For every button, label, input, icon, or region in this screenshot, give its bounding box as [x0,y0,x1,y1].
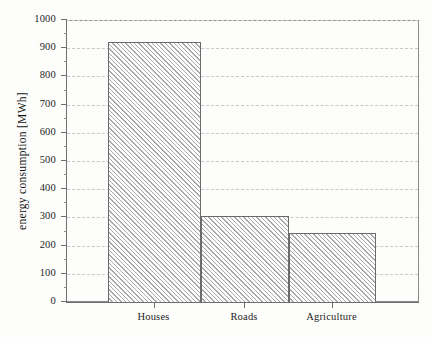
y-axis-minor-tick [64,174,67,175]
gridline [67,20,418,21]
bar [289,233,376,304]
y-axis-tick [61,273,67,274]
y-axis-tick [61,245,67,246]
y-axis-tick-label: 400 [40,183,56,194]
y-axis-minor-tick [64,287,67,288]
y-axis-tick-label: 800 [40,70,56,81]
y-axis-tick [61,132,67,133]
y-axis-tick-label: 0 [51,296,56,307]
y-axis-minor-tick [64,118,67,119]
bar [108,42,201,303]
y-axis-tick [61,188,67,189]
x-axis [66,302,419,303]
y-axis-minor-tick [64,90,67,91]
y-axis-tick-label: 300 [40,211,56,222]
y-axis-minor-tick [64,202,67,203]
y-axis-tick [61,104,67,105]
x-axis-tick [332,302,333,308]
chart-page: energy consumption [MWh] 010020030040050… [0,0,431,337]
y-axis-tick [61,47,67,48]
x-axis-tick [244,302,245,308]
x-axis-tick-label: Houses [137,311,169,322]
plot-area [66,20,419,302]
y-axis-tick-label: 500 [40,155,56,166]
y-axis-tick [61,19,67,20]
y-axis-tick-label: 200 [40,240,56,251]
bar [201,216,289,303]
y-axis-tick-label: 1000 [34,14,56,25]
y-axis-tick-label: 100 [40,268,56,279]
y-axis-tick-label: 700 [40,99,56,110]
y-axis-minor-tick [64,33,67,34]
y-axis-title: energy consumption [MWh] [12,20,32,302]
x-axis-tick-label: Agriculture [306,311,357,322]
y-axis-minor-tick [64,231,67,232]
x-axis-tick-label: Roads [230,311,257,322]
y-axis-tick-label: 900 [40,42,56,53]
y-axis-minor-tick [64,259,67,260]
y-axis-minor-tick [64,146,67,147]
y-axis-tick-label: 600 [40,127,56,138]
y-axis-tick [61,216,67,217]
y-axis-tick [61,75,67,76]
x-axis-tick [154,302,155,308]
y-axis-tick [61,160,67,161]
y-axis-minor-tick [64,61,67,62]
y-axis [66,20,67,302]
